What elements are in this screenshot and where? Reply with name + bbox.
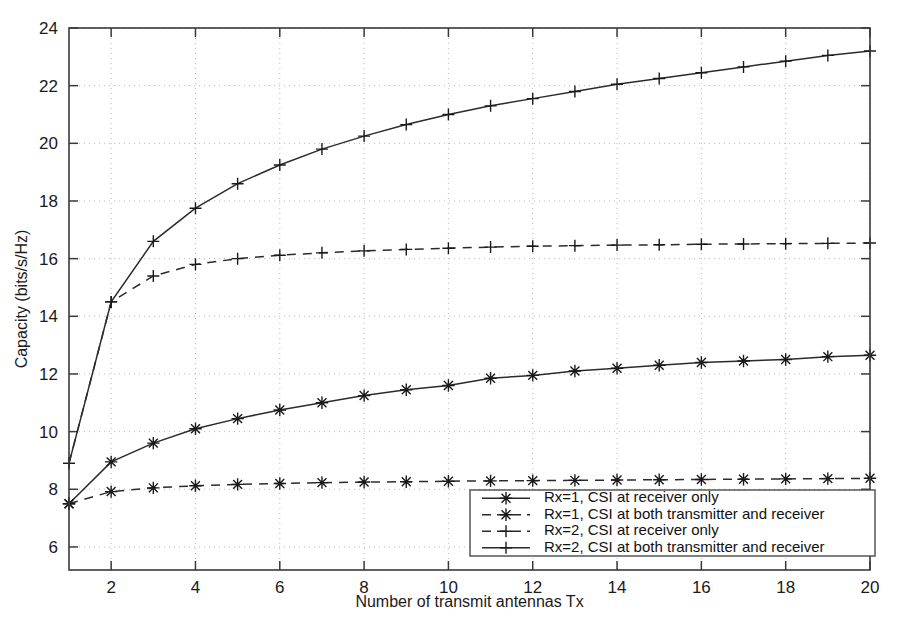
legend-marker-1: [500, 509, 512, 521]
x-tick-label: 20: [861, 578, 880, 597]
x-tick-label: 16: [692, 578, 711, 597]
series-marker: [822, 350, 834, 362]
series-marker: [611, 474, 623, 486]
series-marker: [611, 362, 623, 374]
legend-label-2: Rx=2, CSI at receiver only: [544, 521, 719, 538]
series-marker: [484, 475, 496, 487]
x-tick-label: 18: [776, 578, 795, 597]
series-marker: [442, 475, 454, 487]
legend-label-1: Rx=1, CSI at both transmitter and receiv…: [544, 505, 825, 522]
series-marker: [653, 359, 665, 371]
series-marker: [569, 365, 581, 377]
series-marker: [274, 477, 286, 489]
series-marker: [484, 372, 496, 384]
series-marker: [653, 474, 665, 486]
series-marker: [527, 474, 539, 486]
series-marker: [822, 472, 834, 484]
series-marker: [147, 482, 159, 494]
y-tick-label: 20: [39, 134, 58, 153]
series-marker: [695, 356, 707, 368]
y-tick-label: 6: [49, 538, 58, 557]
series-marker: [231, 478, 243, 490]
y-tick-label: 18: [39, 192, 58, 211]
legend-marker-0: [500, 492, 512, 504]
series-marker: [147, 437, 159, 449]
y-tick-label: 22: [39, 77, 58, 96]
series-marker: [189, 423, 201, 435]
series-marker: [189, 480, 201, 492]
series-marker: [695, 473, 707, 485]
series-marker: [527, 369, 539, 381]
capacity-vs-antennas-chart: 6810121416182022242468101214161820 Numbe…: [0, 0, 899, 621]
series-marker: [737, 473, 749, 485]
series-marker: [400, 476, 412, 488]
series-marker: [274, 404, 286, 416]
series-marker: [105, 456, 117, 468]
x-tick-label: 4: [191, 578, 200, 597]
legend-label-0: Rx=1, CSI at receiver only: [544, 488, 719, 505]
series-marker: [105, 485, 117, 497]
x-tick-label: 2: [106, 578, 115, 597]
series-marker: [358, 476, 370, 488]
y-tick-label: 10: [39, 423, 58, 442]
series-marker: [737, 355, 749, 367]
series-marker: [442, 379, 454, 391]
series-marker: [779, 473, 791, 485]
y-tick-label: 12: [39, 365, 58, 384]
series-marker: [569, 474, 581, 486]
y-tick-label: 14: [39, 307, 58, 326]
y-tick-label: 16: [39, 250, 58, 269]
legend-label-3: Rx=2, CSI at both transmitter and receiv…: [544, 538, 825, 555]
series-marker: [231, 412, 243, 424]
y-tick-label: 24: [39, 19, 58, 38]
x-tick-label: 6: [275, 578, 284, 597]
y-axis-title: Capacity (bits/s/Hz): [13, 230, 30, 369]
y-tick-label: 8: [49, 480, 58, 499]
series-marker: [779, 353, 791, 365]
x-axis-title: Number of transmit antennas Tx: [355, 593, 583, 610]
figure-container: 6810121416182022242468101214161820 Numbe…: [0, 0, 899, 621]
series-marker: [400, 384, 412, 396]
series-marker: [358, 389, 370, 401]
series-marker: [316, 476, 328, 488]
chart-legend[interactable]: Rx=1, CSI at receiver onlyRx=1, CSI at b…: [470, 488, 875, 556]
x-tick-label: 14: [608, 578, 627, 597]
series-marker: [316, 397, 328, 409]
